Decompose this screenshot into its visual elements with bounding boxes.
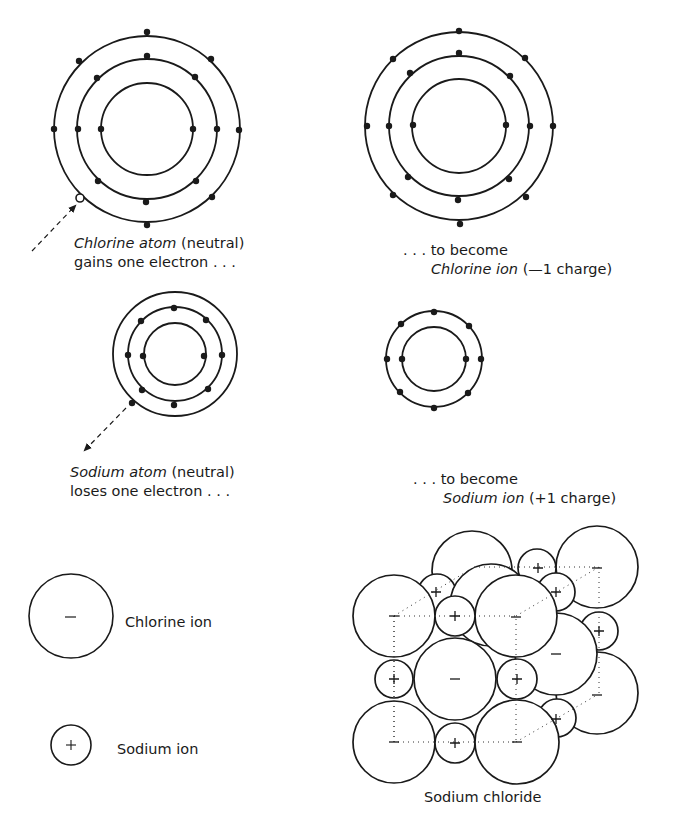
chlorine-atom-action: gains one electron . . . <box>74 254 236 270</box>
lattice-caption: Sodium chloride <box>424 788 541 807</box>
sodium-ion-name: Sodium ion <box>443 490 524 506</box>
sodium-chloride-lattice <box>353 526 638 784</box>
chlorine-ion-name: Chlorine ion <box>431 261 518 277</box>
chlorine-ion-charge: (—1 charge) <box>523 261 613 277</box>
legend-chlorine-ion <box>29 574 113 658</box>
chlorine-atom-caption: Chlorine atom (neutral) gains one electr… <box>74 234 244 272</box>
sodium-atom-caption: Sodium atom (neutral) loses one electron… <box>70 463 235 501</box>
incoming-electron-arrow <box>32 207 74 251</box>
legend-chlorine-label: Chlorine ion <box>125 613 212 632</box>
legend-sodium-ion <box>51 725 91 765</box>
sodium-atom-electrons <box>125 305 225 408</box>
ionic-bonding-diagram <box>0 0 677 835</box>
gained-electron-marker <box>76 194 84 202</box>
sodium-ion-prefix: . . . to become <box>413 471 518 487</box>
sodium-ion-charge: (+1 charge) <box>529 490 616 506</box>
sodium-atom-action: loses one electron . . . <box>70 483 230 499</box>
sodium-ion-electrons <box>384 309 484 411</box>
chlorine-ion-prefix: . . . to become <box>403 242 508 258</box>
shell-1 <box>101 83 193 175</box>
chlorine-ion-electrons <box>364 28 556 227</box>
sodium-atom-qualifier: (neutral) <box>171 464 234 480</box>
chlorine-atom-qualifier: (neutral) <box>181 235 244 251</box>
legend-sodium-label: Sodium ion <box>117 740 198 759</box>
chlorine-atom-name: Chlorine atom <box>74 235 177 251</box>
sodium-ion-caption: . . . to become Sodium ion (+1 charge) <box>413 470 616 508</box>
outgoing-electron-arrow <box>86 408 126 449</box>
sodium-atom-name: Sodium atom <box>70 464 167 480</box>
chlorine-ion-caption: . . . to become Chlorine ion (—1 charge) <box>403 241 612 279</box>
